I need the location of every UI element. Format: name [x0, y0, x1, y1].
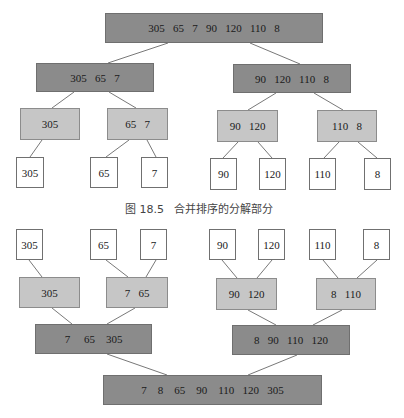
- merge-level2-box: 8 110: [316, 278, 376, 310]
- merge-level2-box: 305: [19, 277, 80, 308]
- split-leaf: 65: [90, 157, 118, 188]
- merge-level1-right: 8 90 110 120: [232, 325, 350, 355]
- split-level1-left: 305 65 7: [36, 63, 154, 92]
- split-level2-box: 110 8: [317, 110, 377, 142]
- split-level2-box: 305: [20, 108, 80, 140]
- split-leaf: 90: [210, 158, 237, 190]
- merge-leaf: 110: [309, 229, 336, 260]
- split-level2-box: 65 7: [107, 108, 168, 140]
- split-level2-box: 90 120: [217, 110, 278, 142]
- merge-leaf: 65: [90, 229, 117, 260]
- merge-leaf: 120: [258, 229, 285, 260]
- split-leaf: 7: [141, 157, 168, 188]
- split-leaf: 8: [364, 158, 391, 190]
- split-leaf: 110: [309, 158, 336, 190]
- merge-leaf: 90: [209, 229, 236, 260]
- merge-leaf: 8: [363, 229, 390, 260]
- split-leaf: 120: [259, 158, 286, 190]
- split-leaf: 305: [16, 157, 44, 188]
- merge-level1-left: 7 65 305: [35, 324, 152, 354]
- merge-level2-box: 7 65: [106, 277, 168, 308]
- merge-leaf: 305: [16, 229, 43, 260]
- merge-root: 7 8 65 90 110 120 305: [103, 375, 322, 405]
- figure-caption: 图 18.5 合并排序的分解部分: [125, 200, 273, 216]
- split-level1-right: 90 120 110 8: [233, 64, 351, 93]
- split-root: 305 65 7 90 120 110 8: [105, 13, 323, 43]
- merge-leaf: 7: [140, 229, 167, 260]
- merge-level2-box: 90 120: [216, 278, 277, 310]
